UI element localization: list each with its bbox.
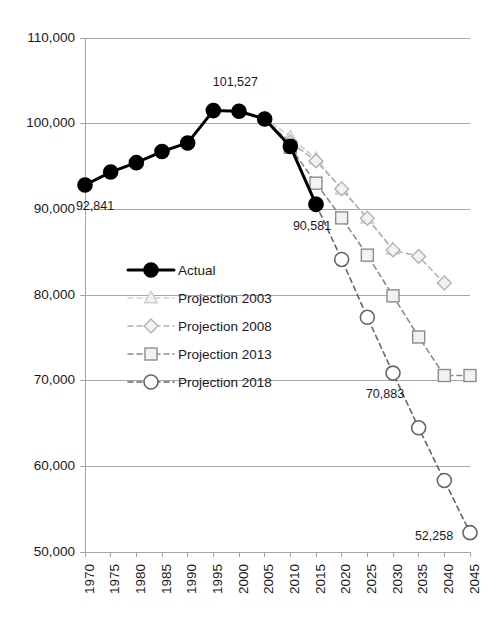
x-tick-label: 2040 [441, 564, 456, 594]
x-tick-label: 2025 [364, 564, 379, 594]
legend-item-projection-2018[interactable]: Projection 2018 [128, 375, 272, 390]
data-point-marker [129, 156, 143, 170]
data-point-marker [155, 145, 169, 159]
x-tick-label: 2030 [390, 564, 405, 594]
legend-label: Projection 2008 [178, 319, 272, 334]
data-point-labels: 92,841101,52790,58170,88352,258 [76, 75, 453, 543]
x-tick-labels: 1970197519801985199019952000200520102015… [82, 564, 482, 594]
data-point-marker [464, 370, 476, 382]
legend-label: Projection 2003 [178, 291, 272, 306]
data-point-label: 52,258 [415, 529, 453, 543]
data-point-marker [309, 197, 323, 211]
data-series-group [78, 104, 477, 540]
data-point-label: 70,883 [366, 387, 404, 401]
y-tick-label: 110,000 [27, 30, 75, 45]
x-tick-label: 2015 [313, 564, 328, 594]
data-point-label: 92,841 [76, 199, 114, 213]
data-point-marker [144, 375, 158, 389]
x-tick-label: 1995 [210, 564, 225, 594]
y-tick-label: 80,000 [34, 287, 75, 302]
legend-item-projection-2013[interactable]: Projection 2013 [128, 347, 272, 362]
y-axis [80, 38, 85, 552]
series-line [85, 111, 316, 205]
data-point-marker [283, 139, 297, 153]
y-tick-labels: 50,00060,00070,00080,00090,000100,000110… [26, 30, 75, 559]
chart-container: 50,00060,00070,00080,00090,000100,000110… [0, 0, 497, 625]
data-point-marker [361, 249, 373, 261]
data-point-marker [412, 421, 426, 435]
gridlines [85, 38, 470, 552]
data-point-marker [78, 178, 92, 192]
series-actual [78, 104, 323, 212]
data-point-marker [463, 526, 477, 540]
legend-label: Projection 2013 [178, 347, 272, 362]
data-point-marker [206, 104, 220, 118]
data-point-marker [387, 290, 399, 302]
x-tick-label: 2000 [236, 564, 251, 594]
x-tick-label: 1990 [184, 564, 199, 594]
x-tick-label: 2020 [338, 564, 353, 594]
x-tick-label: 1980 [133, 564, 148, 594]
data-point-marker [335, 252, 349, 266]
x-tick-label: 1970 [82, 564, 97, 594]
data-point-marker [145, 348, 157, 360]
x-tick-label: 2010 [287, 564, 302, 594]
y-tick-label: 70,000 [34, 372, 75, 387]
series-projection-2008 [258, 112, 451, 290]
x-axis [85, 552, 470, 557]
line-chart: 50,00060,00070,00080,00090,000100,000110… [0, 0, 497, 625]
data-point-marker [336, 212, 348, 224]
legend-item-projection-2003[interactable]: Projection 2003 [128, 291, 272, 306]
data-point-marker [144, 263, 158, 277]
y-tick-label: 60,000 [34, 458, 75, 473]
data-point-marker [437, 276, 451, 290]
y-tick-label: 90,000 [34, 201, 75, 216]
legend-label: Actual [178, 263, 216, 278]
data-point-marker [413, 331, 425, 343]
legend-item-actual[interactable]: Actual [128, 263, 216, 278]
data-point-marker [232, 104, 246, 118]
data-point-marker [104, 165, 118, 179]
data-point-marker [386, 366, 400, 380]
data-point-marker [386, 243, 400, 257]
data-point-marker [144, 319, 158, 333]
x-tick-label: 2035 [415, 564, 430, 594]
data-point-label: 90,581 [293, 219, 331, 233]
y-tick-label: 50,000 [34, 544, 75, 559]
x-tick-label: 1975 [107, 564, 122, 594]
x-tick-label: 2005 [261, 564, 276, 594]
data-point-marker [437, 473, 451, 487]
legend-item-projection-2008[interactable]: Projection 2008 [128, 319, 272, 334]
data-point-marker [258, 112, 272, 126]
data-point-marker [360, 310, 374, 324]
data-point-marker [145, 291, 158, 302]
legend-label: Projection 2018 [178, 375, 272, 390]
y-tick-label: 100,000 [26, 115, 75, 130]
data-point-marker [438, 370, 450, 382]
x-tick-label: 1985 [159, 564, 174, 594]
data-point-marker [181, 136, 195, 150]
x-tick-label: 2045 [467, 564, 482, 594]
data-point-marker [310, 177, 322, 189]
chart-legend: ActualProjection 2003Projection 2008Proj… [128, 263, 272, 390]
data-point-label: 101,527 [213, 75, 258, 89]
